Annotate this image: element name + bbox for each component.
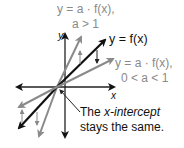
intercept-callout-arrow	[60, 90, 80, 112]
annotation-line-1: The x-intercept	[80, 106, 160, 118]
x-axis-label: x	[111, 91, 116, 101]
stretch-shrink-diagram: y = a · f(x), a > 1 y = f(x) y = a · f(x…	[0, 0, 184, 148]
label-stretch-equation: y = a · f(x),	[57, 3, 115, 15]
label-stretch-condition: a > 1	[72, 18, 99, 30]
annotation-x-intercept-term: x-intercept	[104, 105, 160, 119]
y-axis-label: y	[58, 30, 64, 41]
label-shrink-condition: 0 < a < 1	[121, 72, 168, 84]
annotation-prefix: The	[80, 105, 104, 119]
annotation-line-2: stays the same.	[80, 121, 164, 133]
label-original-equation: y = f(x)	[109, 33, 148, 46]
label-shrink-equation: y = a · f(x),	[115, 57, 173, 69]
